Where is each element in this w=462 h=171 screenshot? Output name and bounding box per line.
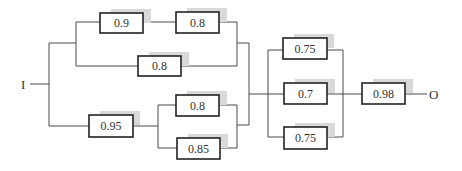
block-0.95: 0.95 <box>89 111 140 137</box>
block-0.9: 0.9 <box>100 9 151 33</box>
svg-text:0.8: 0.8 <box>190 99 205 113</box>
input-terminal-label: I <box>21 77 25 92</box>
svg-text:0.98: 0.98 <box>373 87 394 101</box>
block-0.98: 0.98 <box>362 79 413 104</box>
svg-text:0.95: 0.95 <box>101 119 122 133</box>
block-0.8-middle: 0.8 <box>138 52 189 76</box>
block-0.75-bottom: 0.75 <box>284 123 335 149</box>
output-terminal-label: O <box>429 87 438 102</box>
svg-text:0.9: 0.9 <box>114 16 129 30</box>
block-0.8-lower: 0.8 <box>176 91 227 116</box>
svg-text:0.8: 0.8 <box>152 59 167 73</box>
block-0.85: 0.85 <box>177 134 228 159</box>
svg-text:0.75: 0.75 <box>295 42 316 56</box>
svg-text:0.75: 0.75 <box>295 131 316 145</box>
block-0.7: 0.7 <box>284 79 335 104</box>
reliability-block-diagram: I O 0.9 0.8 0.8 0.95 0.8 0.85 0.75 0. <box>0 0 462 171</box>
svg-text:0.7: 0.7 <box>298 87 313 101</box>
svg-text:0.85: 0.85 <box>188 142 209 156</box>
block-0.8-top: 0.8 <box>176 8 227 33</box>
svg-text:0.8: 0.8 <box>190 16 205 30</box>
block-0.75-top: 0.75 <box>283 34 334 59</box>
